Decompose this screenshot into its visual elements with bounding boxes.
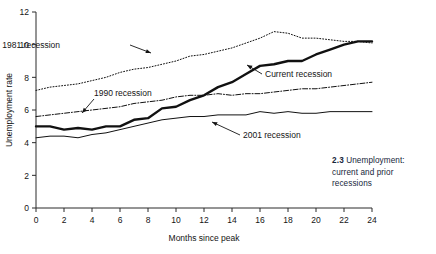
- annotation-arrowhead: [212, 122, 218, 126]
- x-tick-label: 20: [311, 215, 321, 225]
- x-tick-label: 2: [62, 215, 67, 225]
- y-tick-label: 6: [24, 105, 29, 115]
- x-axis-title: Months since peak: [169, 233, 241, 243]
- y-tick-label: 0: [24, 203, 29, 213]
- x-tick-label: 4: [90, 215, 95, 225]
- x-tick-label: 22: [339, 215, 349, 225]
- annotation-arrowhead: [145, 49, 151, 53]
- x-tick-label: 10: [171, 215, 181, 225]
- y-tick-label: 8: [24, 73, 29, 83]
- x-tick-label: 24: [367, 215, 377, 225]
- figure-caption: 2.3 Unemployment: current and prior rece…: [332, 155, 432, 190]
- x-tick-label: 8: [146, 215, 151, 225]
- annotation-label: Current recession: [265, 69, 332, 79]
- annotation-label: 2001 recession: [243, 130, 301, 140]
- figure-container: 024681012 024681012141618202224 1981 rec…: [0, 0, 436, 254]
- annotation-label: 1990 recession: [94, 88, 152, 98]
- annotation-arrowhead: [247, 65, 253, 69]
- x-tick-label: 14: [227, 215, 237, 225]
- y-tick-label: 2: [24, 171, 29, 181]
- series-line-2001-recession: [36, 112, 372, 138]
- y-tick-label: 12: [20, 7, 30, 17]
- x-tick-label: 6: [118, 215, 123, 225]
- figure-caption-number: 2.3: [332, 156, 344, 165]
- x-tick-label: 0: [34, 215, 39, 225]
- annotation-label: 1981 recession: [2, 40, 60, 50]
- series-line-1990-recession: [36, 82, 372, 116]
- y-axis-title: Unemployment rate: [4, 73, 14, 147]
- x-tick-label: 16: [255, 215, 265, 225]
- x-tick-label: 18: [283, 215, 293, 225]
- y-axis-ticks: 024681012: [20, 7, 36, 213]
- data-series-group: [36, 32, 372, 138]
- unemployment-line-chart: 024681012 024681012141618202224 1981 rec…: [0, 0, 436, 254]
- y-tick-label: 4: [24, 138, 29, 148]
- x-axis-ticks: 024681012141618202224: [34, 208, 377, 225]
- chart-annotations: 1981 recession1990 recessionCurrent rece…: [2, 40, 332, 140]
- x-tick-label: 12: [199, 215, 209, 225]
- series-line-1981-recession: [36, 32, 372, 91]
